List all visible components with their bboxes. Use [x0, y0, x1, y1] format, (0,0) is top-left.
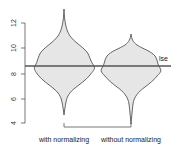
x-axis: [64, 123, 131, 127]
x-category-label: without normalizing: [100, 136, 161, 144]
y-tick-label: 10: [10, 44, 17, 52]
violin-without-normalizing: [101, 34, 161, 124]
y-tick-label: 12: [10, 19, 17, 27]
violin-with-normalizing: [34, 9, 94, 115]
y-axis: 4 6 8 10 12: [10, 19, 25, 125]
x-category-label: with normalizing: [38, 136, 89, 144]
y-tick-label: 4: [10, 121, 17, 125]
y-tick-label: 8: [10, 72, 17, 76]
reference-line-label: lse: [159, 55, 168, 62]
y-tick-label: 6: [10, 97, 17, 101]
violin-chart: 4 6 8 10 12 lse with normalizing without…: [0, 0, 178, 149]
